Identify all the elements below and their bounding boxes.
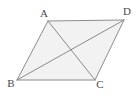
vertex-label-A: A: [40, 7, 48, 19]
geometry-figure: A D C B: [0, 0, 139, 96]
vertex-label-B: B: [7, 77, 14, 89]
vertex-label-C: C: [96, 78, 103, 90]
parallelogram-diagram-svg: A D C B: [0, 0, 139, 96]
vertex-label-D: D: [123, 5, 131, 17]
